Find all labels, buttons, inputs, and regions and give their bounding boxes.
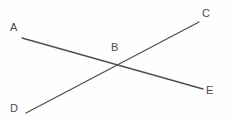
point-label-c: C <box>202 8 210 19</box>
geometry-figure: A B C D E <box>0 0 233 125</box>
line-segment-DC <box>26 22 199 113</box>
point-label-b: B <box>111 42 119 53</box>
point-label-a: A <box>10 22 18 33</box>
point-label-e: E <box>206 85 214 96</box>
lines-canvas <box>0 0 233 125</box>
point-label-d: D <box>10 103 18 114</box>
